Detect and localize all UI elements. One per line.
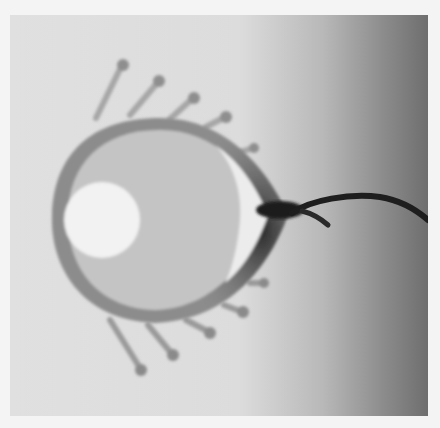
photograph <box>10 15 428 416</box>
eye-object <box>10 15 428 416</box>
pupil-highlight <box>64 182 140 258</box>
